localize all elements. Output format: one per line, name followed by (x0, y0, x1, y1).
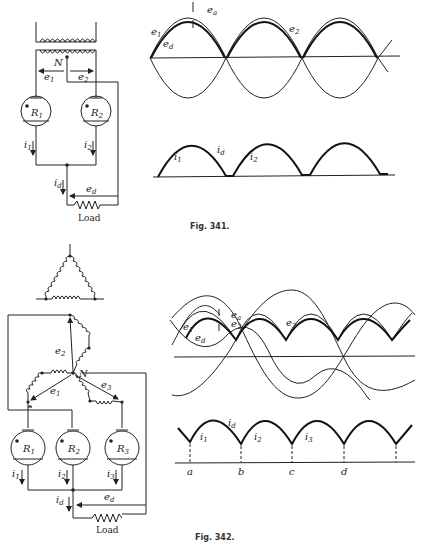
svg-text:e3: e3 (286, 317, 297, 330)
primary-winding-icon (36, 22, 96, 42)
svg-text:e2: e2 (289, 23, 300, 36)
svg-text:i3: i3 (305, 431, 313, 444)
rectifier-tube-r2: R2 (81, 96, 111, 126)
load-label: Load (96, 525, 119, 535)
svg-text:R2: R2 (90, 107, 104, 120)
rectifier-tube-r3: R3 (105, 430, 139, 465)
figure-caption-341: Fig. 341. (190, 222, 230, 231)
load-resistor-icon (92, 514, 122, 522)
marker-b: b (238, 466, 244, 477)
svg-text:e1: e1 (50, 385, 60, 398)
svg-text:ed: ed (86, 183, 97, 196)
svg-text:R1: R1 (22, 443, 35, 456)
fig341-current-plot: i1 id i2 (153, 143, 395, 177)
fig342-circuit: N e2 e1 e3 (8, 244, 146, 535)
svg-text:i2: i2 (250, 151, 258, 164)
svg-text:e1: e1 (183, 321, 193, 334)
svg-text:e2: e2 (55, 345, 66, 358)
svg-text:ed: ed (195, 332, 206, 345)
svg-text:id: id (56, 494, 64, 507)
svg-text:i2: i2 (58, 468, 66, 481)
svg-text:R2: R2 (67, 443, 81, 456)
rectifier-tube-r2: R2 (56, 430, 90, 465)
rectifier-tube-r1: R1 (11, 430, 45, 465)
fig341-voltage-plot: ea e1 ed e2 (150, 2, 400, 98)
svg-text:id: id (217, 144, 225, 157)
svg-text:e1: e1 (44, 71, 54, 84)
svg-text:i1: i1 (12, 468, 20, 481)
svg-text:ed: ed (163, 38, 174, 51)
svg-text:R3: R3 (116, 443, 130, 456)
svg-text:i1: i1 (24, 139, 32, 152)
svg-text:id: id (54, 177, 62, 190)
marker-d: d (341, 466, 347, 477)
fig342-current-plot: i1 id i2 i3 a b c d (175, 417, 415, 477)
svg-text:i1: i1 (174, 151, 182, 164)
fig341-circuit: N e1 e2 R1 R2 i1 (21, 22, 118, 223)
wye-secondary-icon: N e2 e1 e3 (26, 313, 123, 404)
svg-text:R1: R1 (30, 107, 43, 120)
svg-text:i2: i2 (254, 431, 262, 444)
neutral-label: N (53, 57, 64, 68)
svg-text:ea: ea (207, 4, 217, 17)
delta-primary-icon (36, 244, 104, 301)
marker-a: a (187, 466, 193, 477)
svg-text:i2: i2 (84, 139, 92, 152)
svg-text:i3: i3 (107, 468, 115, 481)
figure-caption-342: Fig. 342. (195, 533, 235, 542)
marker-c: c (289, 466, 295, 477)
svg-text:ed: ed (104, 491, 115, 504)
rectifier-figures: N e1 e2 R1 R2 i1 (0, 0, 422, 545)
load-resistor-icon (74, 201, 100, 209)
load-label: Load (78, 213, 101, 223)
svg-text:e1: e1 (151, 26, 161, 39)
fig342-voltage-plot: ea e1 ed e2 e3 (170, 290, 415, 400)
rectifier-tube-r1: R1 (21, 96, 51, 126)
svg-text:i1: i1 (200, 431, 208, 444)
